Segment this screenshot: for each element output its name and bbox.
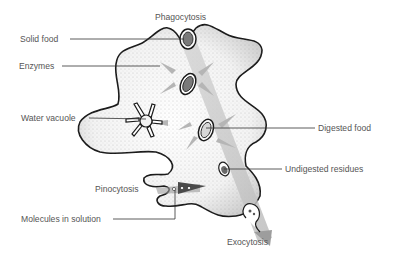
label-exocytosis: Exocytosis bbox=[227, 237, 268, 247]
label-phagocytosis: Phagocytosis bbox=[155, 12, 206, 22]
label-enzymes: Enzymes bbox=[19, 61, 54, 71]
label-pinocytosis: Pinocytosis bbox=[95, 184, 138, 194]
label-solid-food: Solid food bbox=[20, 34, 58, 44]
label-molecules-in-solution: Molecules in solution bbox=[21, 214, 101, 224]
label-undigested-residues: Undigested residues bbox=[285, 164, 363, 174]
label-water-vacuole: Water vacuole bbox=[21, 113, 76, 123]
label-digested-food: Digested food bbox=[318, 123, 371, 133]
